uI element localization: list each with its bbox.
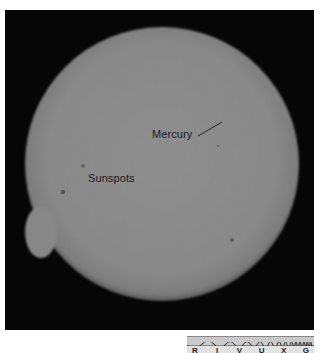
sun-disk-graphic — [5, 10, 314, 330]
wave-band — [187, 336, 314, 346]
sunspot-dot — [217, 145, 219, 147]
spectrum-letter-radio: R — [190, 346, 200, 353]
sunspot-dot — [61, 190, 65, 194]
spectrum-labels: R I V U X G — [187, 346, 314, 353]
sunspots-label: Sunspots — [88, 172, 135, 184]
spectrum-letter-gamma: G — [301, 346, 311, 353]
sun-photograph: Mercury Sunspots — [5, 10, 314, 330]
spectrum-letter-ultraviolet: U — [257, 346, 267, 353]
spectrum-letter-infrared: I — [212, 346, 222, 353]
sunspot-dot — [81, 164, 85, 168]
mercury-label: Mercury — [152, 128, 192, 140]
spectrum-letter-visible: V — [234, 346, 244, 353]
sunspot-dot — [230, 238, 234, 242]
electromagnetic-spectrum-strip: R I V U X G — [187, 336, 314, 353]
spectrum-letter-xray: X — [279, 346, 289, 353]
